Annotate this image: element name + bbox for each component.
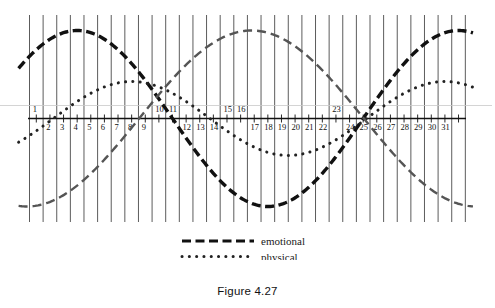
axis-tick-label: 19	[278, 122, 287, 132]
axis-tick-label: 11	[169, 104, 177, 114]
legend-label-physical: physical	[261, 251, 298, 261]
axis-tick-label: 15	[223, 104, 232, 114]
axis-tick-label: 20	[291, 122, 300, 132]
axis-tick-label: 9	[142, 122, 146, 132]
axis-tick-label: 31	[441, 122, 450, 132]
axis-tick-label: 4	[74, 122, 79, 132]
legend-label-emotional: emotional	[261, 235, 305, 247]
axis-tick-label: 23	[332, 104, 341, 114]
axis-tick-label: 28	[400, 122, 409, 132]
axis-tick-label: 21	[305, 122, 314, 132]
axis-tick-label: 18	[264, 122, 273, 132]
axis-tick-label: 30	[428, 122, 437, 132]
axis-tick-label: 12	[183, 122, 192, 132]
axis-tick-label: 22	[319, 122, 328, 132]
axis-tick-label: 7	[114, 122, 118, 132]
figure-caption: Figure 4.27	[0, 285, 495, 297]
axis-tick-labels: 1234567891011121314151617181920212223242…	[33, 104, 450, 132]
biorhythm-figure: 1234567891011121314151617181920212223242…	[0, 0, 495, 308]
axis-tick-label: 5	[87, 122, 91, 132]
axis-tick-label: 13	[196, 122, 205, 132]
biorhythm-chart: 1234567891011121314151617181920212223242…	[0, 0, 495, 260]
axis-tick-label: 27	[387, 122, 396, 132]
axis-tick-label: 17	[251, 122, 260, 132]
axis-tick-label: 6	[101, 122, 105, 132]
axis-tick-label: 1	[33, 104, 37, 114]
chart-legend: emotionalphysicalintellectual	[182, 235, 310, 260]
axis-tick-label: 3	[60, 122, 64, 132]
axis-tick-label: 16	[237, 104, 246, 114]
axis-tick-label: 29	[414, 122, 423, 132]
